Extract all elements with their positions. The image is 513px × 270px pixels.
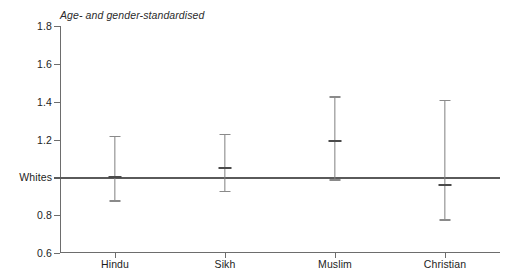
y-tick-label: 1.6 [37, 58, 52, 70]
y-tick-label: 0.6 [37, 247, 52, 259]
y-tick-mark [54, 26, 60, 27]
chart-title: Age- and gender-standardised [60, 9, 204, 21]
y-tick-mark [54, 64, 60, 65]
errorbar-line [334, 96, 335, 179]
errorbar-line [114, 136, 115, 200]
data-point-marker [219, 167, 232, 169]
y-tick-label: 0.8 [37, 209, 52, 221]
chart-container: Age- and gender-standardised 1.81.61.41.… [0, 0, 513, 270]
y-axis-line [60, 26, 61, 253]
y-tick-mark [54, 253, 60, 254]
errorbar-cap-lower [220, 191, 231, 193]
y-tick-mark [54, 215, 60, 216]
x-axis-line [60, 252, 500, 253]
errorbar-cap-upper [440, 100, 451, 102]
reference-line [60, 177, 500, 179]
data-point-marker [439, 184, 452, 186]
errorbar-cap-upper [330, 96, 341, 98]
y-tick-mark [54, 102, 60, 103]
data-point-marker [109, 176, 122, 178]
reference-tick-mark [54, 177, 60, 179]
y-tick-label: 1.2 [37, 134, 52, 146]
x-tick-label-christian: Christian [424, 258, 466, 270]
y-tick-label-whites: Whites [19, 171, 52, 183]
errorbar-line [444, 100, 445, 219]
errorbar-cap-lower [110, 200, 121, 202]
y-tick-label: 1.8 [37, 20, 52, 32]
y-axis-labels: 1.81.61.41.2Whites0.80.6 [0, 0, 52, 270]
y-tick-label: 1.4 [37, 96, 52, 108]
x-tick-label-sikh: Sikh [215, 258, 236, 270]
errorbar-cap-lower [440, 219, 451, 221]
errorbar-cap-upper [220, 134, 231, 136]
x-tick-label-hindu: Hindu [101, 258, 129, 270]
errorbar-cap-lower [330, 179, 341, 181]
data-point-marker [329, 140, 342, 142]
errorbar-cap-upper [110, 136, 121, 138]
x-tick-label-muslim: Muslim [318, 258, 352, 270]
y-tick-mark [54, 140, 60, 141]
errorbar-line [224, 134, 225, 191]
